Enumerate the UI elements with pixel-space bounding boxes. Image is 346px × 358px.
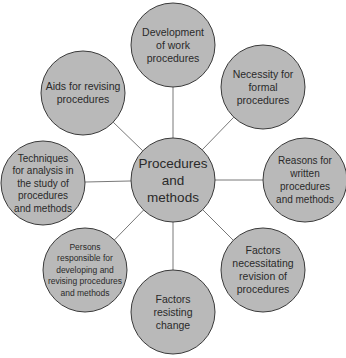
node-reasons: Reasons forwrittenproceduresand methods	[263, 138, 346, 222]
label-line: and	[162, 173, 185, 188]
edge-center-factors-revision	[203, 210, 234, 241]
label-line: of work	[156, 39, 191, 51]
mind-map-diagram: Developmentof workproceduresNecessity fo…	[0, 0, 346, 358]
label-line: procedures	[237, 283, 290, 295]
node-factors-resisting: Factorsresistingchange	[131, 270, 215, 354]
label-line: Aids for revising	[46, 80, 121, 92]
node-techniques: Techniquesfor analysis inthe study ofpro…	[1, 141, 85, 225]
label-line: Factors	[245, 244, 280, 256]
label-line: Development	[142, 26, 204, 38]
edge-center-persons	[114, 210, 143, 240]
label-line: written	[289, 168, 319, 179]
center-node: Proceduresandmethods	[131, 138, 215, 222]
label-line: and methods	[276, 194, 334, 205]
label-line: Techniques	[18, 153, 69, 164]
edge-center-aids	[113, 122, 143, 151]
label-line: procedures	[280, 181, 330, 192]
node-necessity: Necessity forformalprocedures	[221, 45, 305, 129]
label-line: and methods	[60, 288, 109, 298]
label-line: the study of	[17, 178, 69, 189]
label-line: change	[156, 319, 191, 331]
reasons-circle	[263, 138, 346, 222]
label-line: necessitating	[232, 257, 293, 269]
node-factors-revision: Factorsnecessitatingrevision ofprocedure…	[221, 228, 305, 312]
label-line: resisting	[153, 306, 192, 318]
edge-center-necessity	[202, 117, 234, 150]
node-persons: Personsresponsible fordeveloping andrevi…	[43, 228, 127, 312]
label-line: Factors	[155, 293, 190, 305]
label-line: procedures	[237, 94, 290, 106]
label-line: Procedures	[138, 156, 207, 171]
label-line: procedures	[57, 93, 110, 105]
factors-resisting-label: Factorsresistingchange	[153, 293, 192, 331]
label-line: procedures	[18, 190, 68, 201]
label-line: Necessity for	[233, 68, 294, 80]
label-line: revision of	[239, 270, 287, 282]
nodes: Developmentof workproceduresNecessity fo…	[1, 3, 346, 354]
label-line: and methods	[14, 203, 72, 214]
label-line: for analysis in	[12, 165, 73, 176]
edge-center-techniques	[85, 181, 131, 182]
label-line: developing and	[56, 265, 114, 275]
label-line: Persons	[69, 242, 100, 252]
node-aids: Aids for revisingprocedures	[41, 51, 125, 135]
label-line: procedures	[147, 52, 200, 64]
techniques-label: Techniquesfor analysis inthe study ofpro…	[12, 153, 73, 214]
label-line: methods	[147, 190, 199, 205]
label-line: formal	[248, 81, 277, 93]
label-line: Reasons for	[278, 155, 333, 166]
node-development: Developmentof workprocedures	[131, 3, 215, 87]
label-line: responsible for	[57, 253, 113, 263]
label-line: revising procedures	[48, 276, 122, 286]
